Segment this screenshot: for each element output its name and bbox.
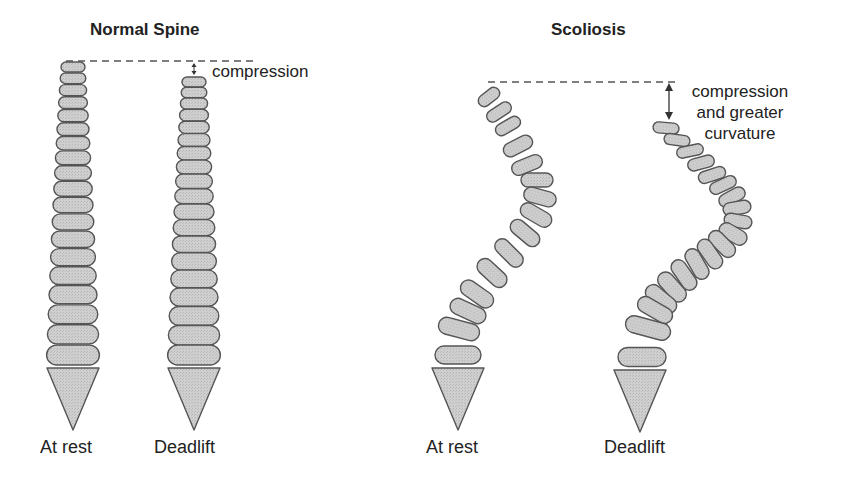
vertebra bbox=[47, 325, 98, 344]
vertebra bbox=[59, 85, 86, 96]
vertebra bbox=[182, 77, 206, 87]
vertebra bbox=[56, 137, 90, 150]
vertebra bbox=[172, 236, 215, 253]
vertebra bbox=[181, 87, 207, 98]
normal-spine-at-rest bbox=[47, 62, 100, 430]
vertebra bbox=[61, 62, 85, 72]
vertebra bbox=[54, 181, 92, 196]
vertebra bbox=[173, 220, 215, 236]
vertebra bbox=[176, 160, 211, 174]
vertebra bbox=[47, 345, 100, 365]
sacrum-triangle bbox=[47, 368, 99, 430]
vertebra bbox=[171, 270, 217, 288]
sacrum-triangle bbox=[614, 370, 666, 432]
vertebra bbox=[49, 286, 97, 304]
vertebra bbox=[58, 110, 88, 122]
vertebra bbox=[176, 174, 213, 188]
scoliosis-compression-arrow-icon bbox=[665, 83, 673, 120]
vertebra bbox=[51, 249, 96, 266]
vertebra bbox=[48, 305, 98, 324]
vertebra bbox=[60, 73, 86, 84]
vertebra bbox=[501, 133, 535, 160]
vertebra bbox=[175, 189, 213, 204]
normal-spine-deadlift bbox=[168, 77, 221, 430]
vertebra bbox=[177, 147, 211, 160]
vertebra bbox=[168, 345, 221, 365]
vertebra bbox=[57, 123, 89, 136]
vertebra bbox=[55, 151, 90, 165]
vertebra bbox=[435, 346, 481, 364]
vertebra bbox=[492, 236, 527, 271]
spine-diagram bbox=[0, 0, 844, 487]
vertebra bbox=[618, 348, 666, 367]
sacrum-triangle bbox=[168, 368, 220, 430]
normal-compression-arrow-icon bbox=[192, 63, 197, 75]
vertebra bbox=[180, 109, 209, 121]
sacrum-triangle bbox=[432, 368, 484, 430]
vertebra bbox=[521, 173, 553, 187]
vertebra bbox=[59, 97, 88, 109]
vertebra bbox=[180, 98, 207, 109]
vertebra bbox=[178, 134, 210, 147]
scoliosis-spine-deadlift bbox=[614, 121, 753, 432]
vertebra bbox=[179, 121, 209, 133]
vertebra bbox=[55, 166, 92, 180]
vertebra bbox=[168, 326, 219, 345]
vertebra bbox=[52, 214, 94, 230]
vertebra bbox=[51, 231, 94, 248]
vertebra bbox=[663, 133, 690, 148]
vertebra bbox=[170, 288, 218, 306]
scoliosis-spine-at-rest bbox=[432, 85, 558, 430]
vertebra bbox=[172, 253, 217, 270]
vertebra bbox=[169, 307, 219, 326]
vertebra bbox=[174, 204, 214, 220]
vertebra bbox=[53, 197, 93, 213]
vertebra bbox=[50, 267, 96, 285]
vertebra bbox=[653, 121, 680, 134]
